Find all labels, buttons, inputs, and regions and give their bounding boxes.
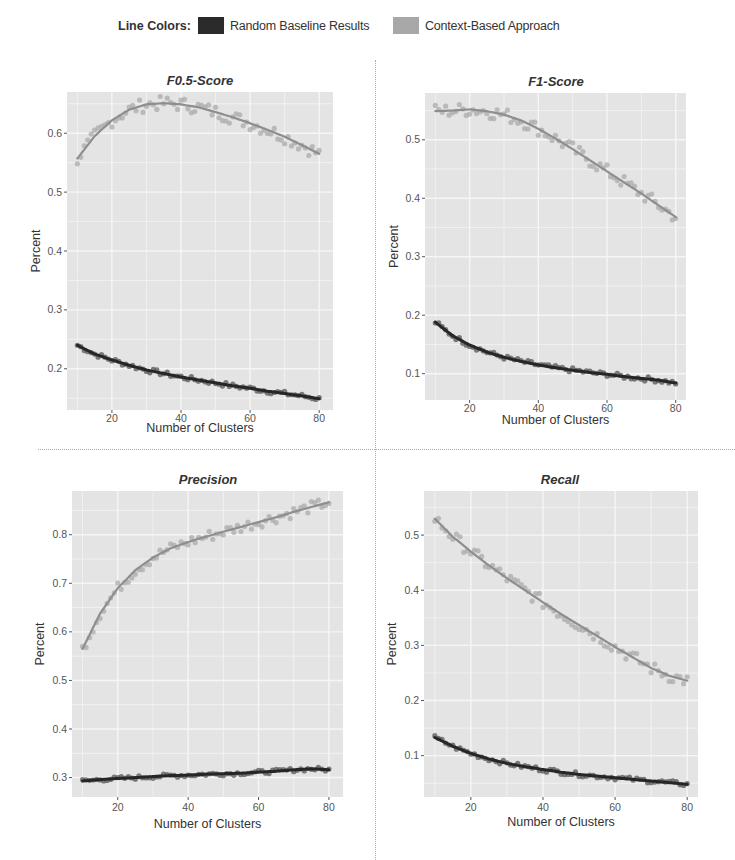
data-point xyxy=(259,524,264,529)
data-point xyxy=(306,153,311,158)
panel-title: F0.5-Score xyxy=(167,73,233,88)
data-point xyxy=(272,126,277,131)
y-tick-label: 0.5 xyxy=(405,133,420,145)
chart-grid: 204060800.20.30.40.50.6F0.5-ScoreNumber … xyxy=(0,0,735,860)
panel-precision: 204060800.30.40.50.60.70.8PrecisionNumbe… xyxy=(33,472,343,831)
x-tick-label: 20 xyxy=(112,801,124,813)
data-point xyxy=(147,562,152,567)
y-axis-label: Percent xyxy=(387,224,401,268)
panel-title: Recall xyxy=(541,472,580,487)
data-point xyxy=(475,548,480,553)
data-point xyxy=(140,567,145,572)
y-axis-label: Percent xyxy=(33,622,47,666)
data-point xyxy=(594,167,599,172)
x-tick-label: 60 xyxy=(253,801,265,813)
y-tick-label: 0.3 xyxy=(52,771,67,783)
y-tick-label: 0.3 xyxy=(47,303,62,315)
data-point xyxy=(609,648,614,653)
data-point xyxy=(622,174,627,179)
y-tick-label: 0.5 xyxy=(52,674,67,686)
data-point xyxy=(634,651,639,656)
data-point xyxy=(237,112,242,117)
data-point xyxy=(491,116,496,121)
data-point xyxy=(537,591,542,596)
data-point xyxy=(206,102,211,107)
x-axis-label: Number of Clusters xyxy=(146,421,254,435)
y-tick-label: 0.4 xyxy=(47,245,62,257)
data-point xyxy=(618,182,623,187)
data-point xyxy=(457,534,462,539)
y-tick-label: 0.1 xyxy=(405,367,420,379)
data-point xyxy=(525,126,530,131)
x-tick-label: 20 xyxy=(106,412,118,424)
data-point xyxy=(570,140,575,145)
data-point xyxy=(685,674,690,679)
x-tick-label: 40 xyxy=(182,801,194,813)
x-axis-label: Number of Clusters xyxy=(507,815,615,829)
data-point xyxy=(140,110,145,115)
data-point xyxy=(536,133,541,138)
y-tick-label: 0.8 xyxy=(52,528,67,540)
data-point xyxy=(288,516,293,521)
x-tick-label: 80 xyxy=(681,801,693,813)
y-tick-label: 0.5 xyxy=(47,186,62,198)
data-point xyxy=(210,537,215,542)
data-point xyxy=(530,599,535,604)
data-point xyxy=(443,104,448,109)
x-tick-label: 40 xyxy=(537,801,549,813)
x-tick-label: 20 xyxy=(464,402,476,414)
x-axis-label: Number of Clusters xyxy=(502,413,610,427)
data-point xyxy=(209,112,214,117)
data-point xyxy=(467,112,472,117)
panel-recall: 204060800.10.20.30.40.5RecallNumber of C… xyxy=(385,472,698,829)
panel-f0-5-score: 204060800.20.30.40.50.6F0.5-ScoreNumber … xyxy=(29,73,333,435)
y-axis-label: Percent xyxy=(29,229,43,273)
data-point xyxy=(192,109,197,114)
y-tick-label: 0.7 xyxy=(52,577,67,589)
data-point xyxy=(185,106,190,111)
data-point xyxy=(213,105,218,110)
data-point xyxy=(165,96,170,101)
data-point xyxy=(604,162,609,167)
data-point xyxy=(652,662,657,667)
data-point xyxy=(75,161,80,166)
data-point xyxy=(681,681,686,686)
y-tick-label: 0.6 xyxy=(47,127,62,139)
data-point xyxy=(137,97,142,102)
data-point xyxy=(591,636,596,641)
data-point xyxy=(532,120,537,125)
x-tick-label: 80 xyxy=(313,412,325,424)
data-point xyxy=(649,192,654,197)
data-point xyxy=(305,510,310,515)
data-point xyxy=(109,124,114,129)
data-point xyxy=(249,526,254,531)
data-point xyxy=(207,529,212,534)
panel-title: F1-Score xyxy=(528,74,584,89)
data-point xyxy=(175,107,180,112)
y-tick-label: 0.4 xyxy=(404,584,419,596)
panel-title: Precision xyxy=(179,472,238,487)
data-point xyxy=(505,108,510,113)
data-point xyxy=(282,141,287,146)
data-point xyxy=(670,679,675,684)
y-tick-label: 0.2 xyxy=(405,309,420,321)
y-axis-label: Percent xyxy=(385,622,399,666)
y-tick-label: 0.4 xyxy=(405,192,420,204)
data-point xyxy=(495,107,500,112)
data-point xyxy=(457,102,462,107)
data-point xyxy=(433,103,438,108)
y-tick-label: 0.4 xyxy=(52,723,67,735)
data-point xyxy=(154,107,159,112)
x-tick-label: 60 xyxy=(609,801,621,813)
x-tick-label: 20 xyxy=(465,801,477,813)
data-point xyxy=(623,656,628,661)
data-point xyxy=(274,520,279,525)
y-tick-label: 0.3 xyxy=(404,639,419,651)
data-point xyxy=(182,97,187,102)
y-tick-label: 0.5 xyxy=(404,529,419,541)
y-tick-label: 0.2 xyxy=(404,694,419,706)
data-point xyxy=(642,198,647,203)
data-point xyxy=(316,497,321,502)
y-tick-label: 0.3 xyxy=(405,250,420,262)
y-tick-label: 0.1 xyxy=(404,749,419,761)
